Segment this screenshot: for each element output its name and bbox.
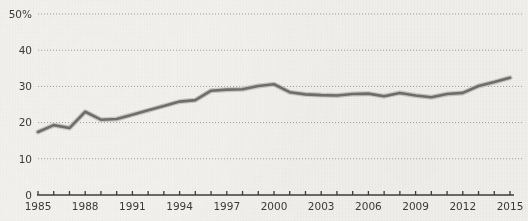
y-tick-label-10: 10 [19, 153, 32, 165]
x-tick-label-2009: 2009 [402, 200, 429, 212]
x-tick-label-2000: 2000 [261, 200, 288, 212]
y-tick-label-20: 20 [19, 116, 32, 128]
x-tick-label-2006: 2006 [355, 200, 382, 212]
x-tick-label-1991: 1991 [119, 200, 146, 212]
series-line-halo [38, 78, 510, 132]
y-tick-label-40: 40 [19, 44, 32, 56]
x-tick-label-1985: 1985 [25, 200, 52, 212]
x-tick-label-2015: 2015 [497, 200, 524, 212]
x-tick-label-1988: 1988 [72, 200, 99, 212]
chart-page: 01020304050% 198519881991199419972000200… [0, 0, 528, 221]
y-tick-label-30: 30 [19, 80, 32, 92]
x-tick-label-2012: 2012 [449, 200, 476, 212]
x-tick-label-1997: 1997 [213, 200, 240, 212]
y-tick-label-0: 0 [25, 189, 32, 201]
y-axis-labels-group: 01020304050% [9, 8, 32, 201]
x-tick-label-1994: 1994 [166, 200, 193, 212]
x-tick-label-2003: 2003 [308, 200, 335, 212]
line-chart: 01020304050% 198519881991199419972000200… [0, 0, 528, 221]
y-tick-label-50: 50% [9, 8, 32, 20]
x-axis-labels-group: 1985198819911994199720002003200620092012… [25, 200, 524, 212]
